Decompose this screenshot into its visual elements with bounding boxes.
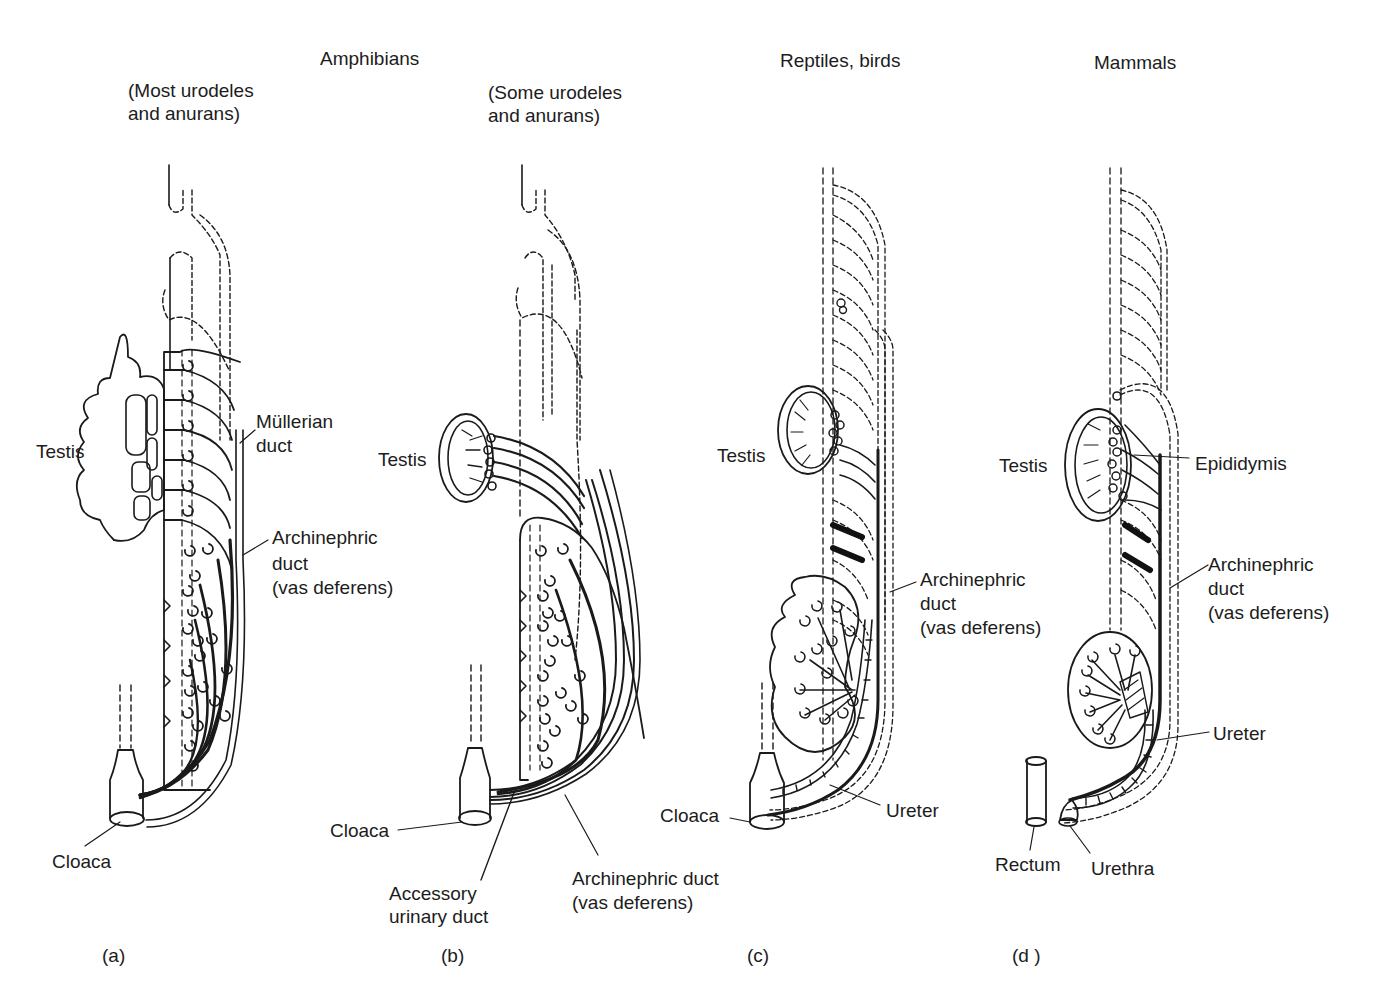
panel-c-ureter-label: Ureter [886,799,939,823]
panel-d-label: (d ) [1012,945,1041,967]
panel-b-archinephric-line2: (vas deferens) [572,891,693,915]
panel-d-drawing [1026,168,1209,853]
header-reptiles-birds: Reptiles, birds [780,49,900,73]
panel-a-archinephric-line3: (vas deferens) [272,576,393,600]
panel-d-ureter-label: Ureter [1213,722,1266,746]
panel-d-rectum-label: Rectum [995,853,1060,877]
panel-a-mullerian-line2: duct [256,434,292,458]
panel-b-drawing [398,165,644,880]
panel-c-drawing [730,168,916,829]
panel-b-subtitle-line1: (Some urodeles [488,81,622,105]
panel-a-testis-label: Testis [36,440,85,464]
panel-d-archinephric-line2: duct [1208,577,1244,601]
panel-c-cloaca-label: Cloaca [660,804,719,828]
panel-b-cloaca-label: Cloaca [330,819,389,843]
panel-b-accessory-line2: urinary duct [389,905,488,929]
panel-d-archinephric-line1: Archinephric [1208,553,1314,577]
panel-a-label: (a) [102,945,125,967]
panel-d-urethra-label: Urethra [1091,857,1154,881]
panel-d-epididymis-label: Epididymis [1195,452,1287,476]
panel-c-testis-label: Testis [717,444,766,468]
panel-b-testis-label: Testis [378,448,427,472]
panel-d-testis-label: Testis [999,454,1048,478]
panel-b-archinephric-line1: Archinephric duct [572,867,719,891]
panel-a-drawing [77,165,268,846]
diagram-artwork [0,0,1374,997]
panel-c-label: (c) [747,945,769,967]
panel-c-archinephric-line1: Archinephric [920,568,1026,592]
panel-a-cloaca-label: Cloaca [52,850,111,874]
header-mammals: Mammals [1094,51,1176,75]
panel-a-subtitle-line2: and anurans) [128,102,240,126]
panel-a-mullerian-line1: Müllerian [256,410,333,434]
panel-c-archinephric-line2: duct [920,592,956,616]
header-amphibians: Amphibians [320,47,419,71]
panel-c-archinephric-line3: (vas deferens) [920,616,1041,640]
panel-a-archinephric-line2: duct [272,552,308,576]
panel-d-archinephric-line3: (vas deferens) [1208,601,1329,625]
panel-b-subtitle-line2: and anurans) [488,104,600,128]
panel-a-subtitle-line1: (Most urodeles [128,79,254,103]
panel-a-archinephric-line1: Archinephric [272,526,378,550]
panel-b-accessory-line1: Accessory [389,882,477,906]
panel-b-label: (b) [441,945,464,967]
